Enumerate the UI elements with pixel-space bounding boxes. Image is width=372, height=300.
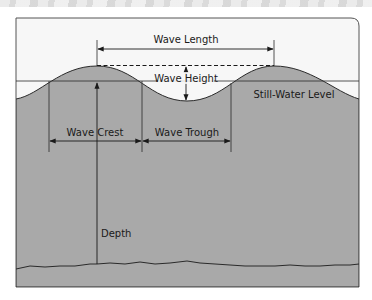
wave-trough-label: Wave Trough bbox=[155, 127, 219, 138]
still-water-level-label: Still-Water Level bbox=[254, 89, 335, 100]
wave-height-label: Wave Height bbox=[154, 73, 218, 84]
wave-length-label: Wave Length bbox=[153, 34, 218, 45]
wave-diagram: Wave Length Wave Height Still-Water Leve… bbox=[0, 0, 372, 300]
wave-crest-label: Wave Crest bbox=[67, 127, 124, 138]
depth-label: Depth bbox=[101, 228, 131, 239]
